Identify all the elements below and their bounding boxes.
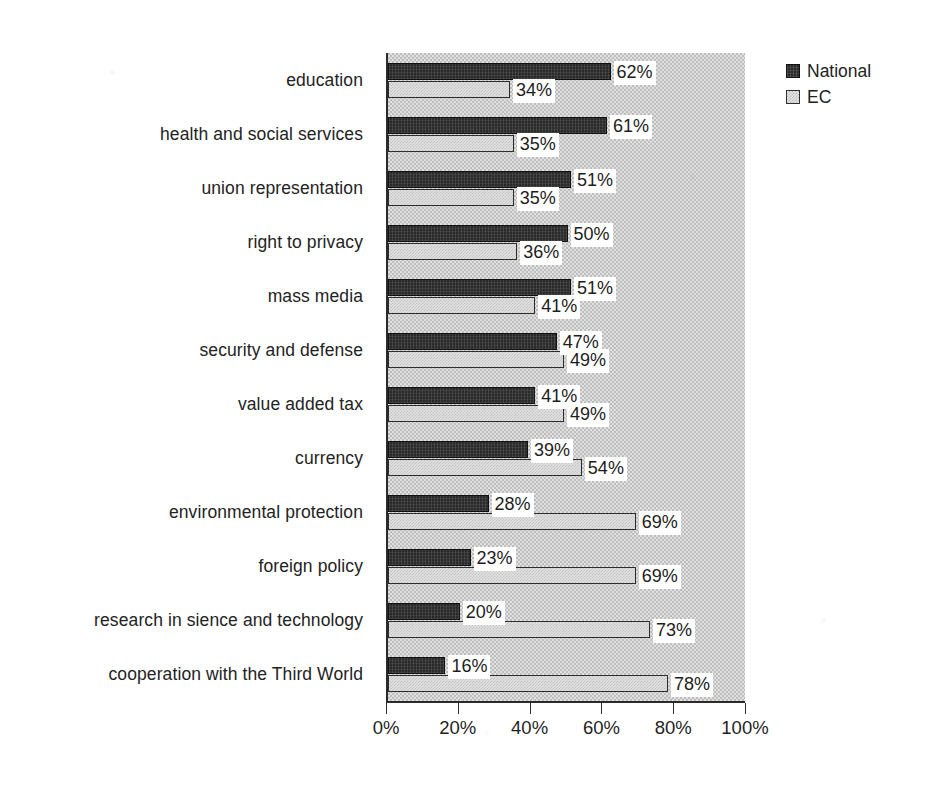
x-axis-tick	[458, 703, 459, 714]
bar-national	[388, 63, 611, 80]
category-label: value added tax	[238, 394, 363, 414]
data-label: 34%	[513, 79, 555, 103]
data-label: 16%	[448, 655, 490, 679]
bar-ec	[388, 189, 514, 206]
data-label: 23%	[474, 547, 516, 571]
data-label: 36%	[520, 241, 562, 265]
x-axis-tick	[386, 703, 387, 714]
data-label: 69%	[639, 511, 681, 535]
bar-ec	[388, 621, 650, 638]
data-label: 49%	[567, 349, 609, 373]
data-label: 51%	[574, 277, 616, 301]
plot-area: 62%34%61%35%51%35%50%36%51%41%47%49%41%4…	[386, 53, 745, 702]
x-axis: 0%20%40%60%80%100%	[386, 703, 745, 747]
data-label: 51%	[574, 169, 616, 193]
category-label: security and defense	[200, 340, 364, 360]
category-label: union representation	[201, 178, 363, 198]
x-axis-tick-label: 20%	[439, 717, 476, 739]
category-label: currency	[295, 448, 363, 468]
x-axis-tick	[601, 703, 602, 714]
x-axis-tick	[530, 703, 531, 714]
bar-national	[388, 657, 445, 674]
category-label: foreign policy	[258, 556, 363, 576]
bar-ec	[388, 297, 535, 314]
bar-national	[388, 117, 607, 134]
x-axis-tick-label: 100%	[721, 717, 768, 739]
x-axis-tick-label: 40%	[511, 717, 548, 739]
category-label: right to privacy	[248, 232, 363, 252]
bar-national	[388, 225, 568, 242]
bar-ec	[388, 81, 510, 98]
legend-label: National	[807, 61, 871, 81]
legend: National EC	[786, 58, 926, 110]
data-label: 54%	[585, 457, 627, 481]
bar-ec	[388, 135, 514, 152]
legend-item-ec: EC	[786, 84, 926, 110]
data-label: 41%	[538, 295, 580, 319]
category-axis-labels: education health and social services uni…	[0, 53, 375, 702]
bar-ec	[388, 351, 564, 368]
legend-swatch-national-icon	[786, 64, 800, 78]
x-axis-tick	[673, 703, 674, 714]
bar-national	[388, 495, 489, 512]
legend-swatch-ec-icon	[786, 90, 800, 104]
category-label: education	[286, 70, 363, 90]
category-label: health and social services	[160, 124, 363, 144]
legend-item-national: National	[786, 58, 926, 84]
data-label: 35%	[517, 187, 559, 211]
x-axis-tick-label: 0%	[373, 717, 400, 739]
bar-ec	[388, 243, 517, 260]
category-label: research in sience and technology	[94, 610, 363, 630]
data-label: 28%	[492, 493, 534, 517]
category-label: mass media	[268, 286, 363, 306]
bar-national	[388, 603, 460, 620]
data-label: 61%	[610, 115, 652, 139]
data-label: 78%	[671, 673, 713, 697]
bar-ec	[388, 675, 668, 692]
bar-national	[388, 387, 535, 404]
category-label: cooperation with the Third World	[109, 664, 364, 684]
bar-national	[388, 549, 471, 566]
data-label: 73%	[653, 619, 695, 643]
legend-label: EC	[807, 87, 831, 107]
bar-national	[388, 441, 528, 458]
data-label: 20%	[463, 601, 505, 625]
horizontal-bar-chart: education health and social services uni…	[0, 0, 936, 806]
data-label: 35%	[517, 133, 559, 157]
category-label: environmental protection	[169, 502, 363, 522]
data-label: 39%	[531, 439, 573, 463]
data-label: 69%	[639, 565, 681, 589]
bar-national	[388, 279, 571, 296]
x-axis-tick-label: 60%	[583, 717, 620, 739]
bar-national	[388, 171, 571, 188]
x-axis-tick-label: 80%	[655, 717, 692, 739]
data-label: 49%	[567, 403, 609, 427]
data-label: 62%	[614, 61, 656, 85]
data-label: 50%	[571, 223, 613, 247]
x-axis-tick	[745, 703, 746, 714]
bar-national	[388, 333, 557, 350]
